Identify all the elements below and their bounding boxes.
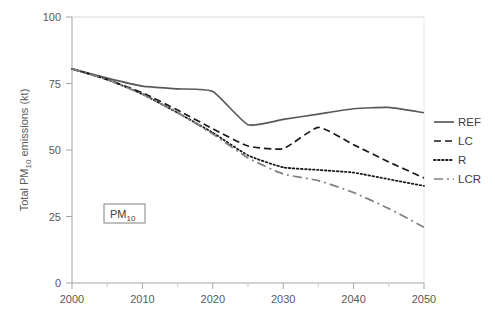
x-tick-label-2010: 2010 — [130, 293, 154, 305]
legend-label-lc: LC — [458, 135, 473, 147]
y-axis-title-pre: Total PM — [18, 169, 30, 212]
x-tick-label-2000: 2000 — [60, 293, 84, 305]
y-tick-label-50: 50 — [49, 144, 61, 156]
legend-label-lcr: LCR — [458, 173, 481, 185]
chart-figure: 100 75 50 25 0 2000 2010 2020 2030 2040 … — [0, 0, 495, 321]
x-tick-label-2030: 2030 — [271, 293, 295, 305]
annotation-pm10: PM10 — [104, 204, 145, 223]
annotation-text-sub: 10 — [127, 214, 136, 223]
y-axis-title: Total PM10 emissions (kt) — [18, 89, 33, 212]
y-tick-label-100: 100 — [43, 11, 61, 23]
emissions-line-chart: 100 75 50 25 0 2000 2010 2020 2030 2040 … — [0, 0, 495, 321]
plot-area-background — [72, 17, 424, 283]
x-axis-ticks — [72, 283, 424, 289]
x-tick-label-2050: 2050 — [412, 293, 436, 305]
legend-label-r: R — [458, 154, 466, 166]
y-tick-label-0: 0 — [55, 277, 61, 289]
y-tick-label-75: 75 — [49, 78, 61, 90]
y-axis-ticks — [66, 17, 72, 283]
x-tick-label-2020: 2020 — [201, 293, 225, 305]
annotation-text-pre: PM — [110, 208, 127, 220]
y-tick-label-25: 25 — [49, 211, 61, 223]
legend-label-ref: REF — [458, 116, 481, 128]
x-tick-label-2040: 2040 — [341, 293, 365, 305]
y-axis-title-post: emissions (kt) — [18, 89, 30, 160]
chart-legend: REFLCRLCR — [434, 116, 481, 185]
